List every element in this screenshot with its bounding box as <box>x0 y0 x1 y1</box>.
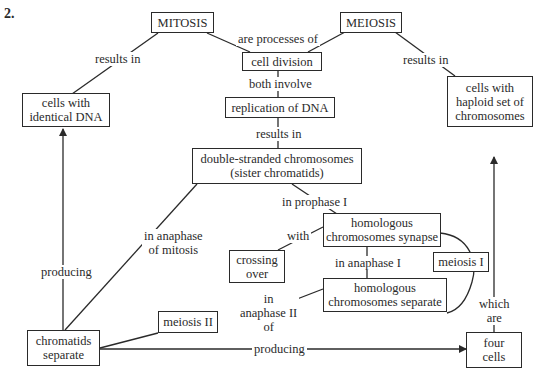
node-double-stranded-chromosomes: double-stranded chromosomes (sister chro… <box>192 148 362 184</box>
node-meiosis: MEIOSIS <box>340 12 402 33</box>
link-producing-bottom: producing <box>252 342 307 356</box>
link-which-are: which are <box>477 297 512 325</box>
link-in-anaphase-of-mitosis: in anaphase of mitosis <box>142 229 205 257</box>
link-in-anaphase-ii-of: in anaphase II of <box>238 292 299 334</box>
node-mitosis: MITOSIS <box>151 12 214 33</box>
node-crossing-over: crossing over <box>229 250 285 283</box>
link-with: with <box>285 229 311 243</box>
link-replication-results-in: results in <box>254 127 303 141</box>
link-producing-left: producing <box>39 265 94 279</box>
node-meiosis-i: meiosis I <box>433 252 489 272</box>
concept-map: 2. results in are processes of results i… <box>0 0 537 369</box>
node-meiosis-ii: meiosis II <box>158 311 218 333</box>
link-both-involve: both involve <box>247 77 314 91</box>
node-four-cells: four cells <box>466 332 522 368</box>
node-chromatids-separate: chromatids separate <box>27 330 100 366</box>
node-homologous-separate: homologous chromosomes separate <box>323 278 447 312</box>
node-cells-haploid: cells with haploid set of chromosomes <box>447 76 533 127</box>
link-in-prophase-i: in prophase I <box>280 195 349 209</box>
node-cells-identical-dna: cells with identical DNA <box>22 93 110 127</box>
node-replication-of-dna: replication of DNA <box>225 97 335 118</box>
link-are-processes-of: are processes of <box>236 32 320 46</box>
link-meiosis-results-in: results in <box>401 53 450 67</box>
link-mitosis-results-in: results in <box>93 52 142 66</box>
question-number: 2. <box>4 6 15 22</box>
link-in-anaphase-i: in anaphase I <box>333 256 403 270</box>
node-homologous-synapse: homologous chromosomes synapse <box>323 213 441 247</box>
node-cell-division: cell division <box>242 52 322 71</box>
